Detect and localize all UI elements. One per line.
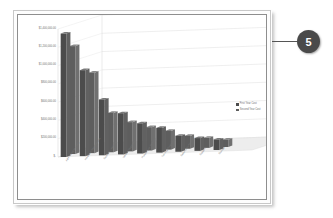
- callout-leader-line: [272, 41, 300, 42]
- y-axis-tick-label: $1,400,000.00: [20, 28, 56, 31]
- callout-marker[interactable]: 5: [272, 30, 330, 54]
- bar-chart[interactable]: $1,400,000.00$1,200,000.00$1,000,000.00$…: [18, 15, 266, 199]
- y-axis-tick-label: $1,200,000.00: [20, 46, 56, 49]
- chart-plot-svg: [18, 15, 267, 200]
- presentation-slide[interactable]: $1,400,000.00$1,200,000.00$1,000,000.00$…: [13, 10, 271, 204]
- callout-badge-number[interactable]: 5: [297, 30, 320, 53]
- legend-swatch-icon: [236, 103, 239, 106]
- legend-swatch-icon: [236, 109, 239, 112]
- legend-label: First Year Cost: [240, 103, 257, 106]
- legend-item[interactable]: First Year Cost: [236, 103, 261, 106]
- legend-label: Second Year Cost: [240, 109, 261, 112]
- y-axis-tick-label: $800,000.00: [20, 82, 56, 85]
- y-axis-tick-label: $400,000.00: [20, 119, 56, 122]
- y-axis-tick-label: $200,000.00: [20, 137, 56, 140]
- y-axis-tick-label: $600,000.00: [20, 101, 56, 104]
- legend-item[interactable]: Second Year Cost: [236, 109, 261, 112]
- y-axis-tick-label: $-: [20, 156, 56, 159]
- slide-content-area: $1,400,000.00$1,200,000.00$1,000,000.00$…: [17, 14, 267, 200]
- y-axis-tick-label: $1,000,000.00: [20, 64, 56, 67]
- chart-legend[interactable]: First Year CostSecond Year Cost: [236, 103, 261, 115]
